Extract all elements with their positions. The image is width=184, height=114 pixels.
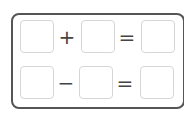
answer-box-row1-operand2[interactable]: [81, 20, 115, 53]
answer-box-row1-operand1[interactable]: [20, 20, 54, 53]
answer-box-row2-operand2[interactable]: [79, 66, 113, 99]
answer-box-row2-operand1[interactable]: [20, 66, 54, 99]
plus-sign: +: [55, 27, 79, 47]
equals-sign-row1: =: [115, 27, 139, 47]
answer-box-row2-result[interactable]: [140, 66, 174, 99]
answer-box-row1-result[interactable]: [141, 20, 175, 53]
equals-sign-row2: =: [113, 73, 137, 93]
minus-sign: −: [54, 73, 78, 93]
